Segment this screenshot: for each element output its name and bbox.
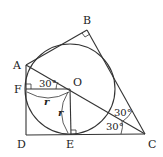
label-o: O (73, 76, 82, 89)
segment-oe (70, 89, 71, 135)
angle-label-o: 30° (39, 78, 57, 89)
side-cd (26, 134, 145, 135)
geometry-diagram: A B C D E F O 30° 30° 30° r r (0, 0, 163, 157)
side-ab (26, 30, 87, 65)
label-e: E (66, 138, 74, 151)
label-b: B (83, 14, 91, 27)
label-a: A (12, 59, 22, 72)
angle-label-c-upper: 30° (114, 107, 132, 118)
radius-label-fo: r (44, 96, 50, 107)
label-d: D (17, 138, 26, 151)
label-c: C (148, 138, 156, 151)
side-bc (87, 30, 145, 134)
label-f: F (14, 83, 22, 96)
diagram-canvas: A B C D E F O 30° 30° 30° r r (0, 0, 163, 157)
right-angle-mark-f (26, 84, 31, 89)
angle-label-c-lower: 30° (106, 121, 124, 132)
radius-label-oe: r (58, 107, 64, 118)
